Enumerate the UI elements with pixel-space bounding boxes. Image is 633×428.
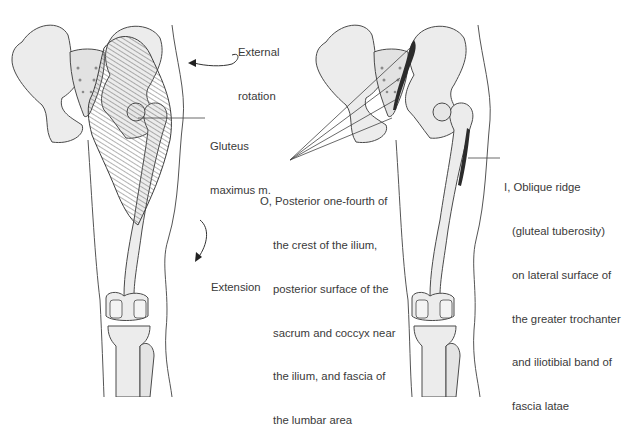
external-rotation-label: External rotation — [238, 16, 279, 118]
extension-arrow — [198, 220, 207, 258]
origin-label: O, Posterior one-fourth of the crest of … — [260, 165, 395, 428]
body-outline-right — [474, 25, 491, 397]
ilium-left-bone — [12, 25, 83, 142]
extension-label: Extension — [211, 251, 261, 309]
external-rotation-arrow — [194, 54, 238, 65]
left-panel-figure — [12, 25, 238, 397]
body-outline-inner-left — [88, 140, 104, 397]
insertion-label: I, Oblique ridge (gluteal tuberosity) on… — [504, 151, 621, 428]
body-outline-inner-right — [396, 140, 412, 397]
femoral-head-right — [433, 103, 451, 121]
fibula-left — [140, 343, 154, 397]
fibula-right — [446, 343, 460, 397]
rotation-arrowhead — [188, 59, 196, 67]
body-outline-left — [165, 25, 184, 397]
